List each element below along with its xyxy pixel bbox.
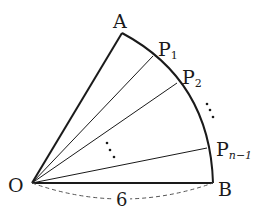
label-Pn-1-main: P (216, 138, 229, 160)
interior-ellipsis-dot (106, 142, 109, 145)
label-A: A (112, 10, 127, 32)
interior-ellipsis-dot (109, 149, 112, 152)
arc-ellipsis-dot (206, 103, 209, 106)
label-P1-sub: 1 (171, 49, 178, 62)
label-P2: P2 (182, 66, 202, 90)
label-B: B (218, 178, 232, 200)
label-O: O (8, 174, 24, 196)
label-P2-sub: 2 (195, 77, 202, 90)
label-Pn-1-sub: n−1 (229, 149, 252, 162)
sector-diagram: A O B P1 P2 Pn−1 6 (0, 0, 268, 217)
label-P1: P1 (158, 38, 178, 62)
label-Pn-1: Pn−1 (216, 138, 252, 162)
arc-ellipsis-dot (209, 109, 212, 112)
segment-OP1 (32, 56, 153, 183)
segment-OA (32, 33, 122, 183)
arc-ellipsis-dot (212, 116, 215, 119)
radius-label: 6 (116, 189, 127, 210)
interior-ellipsis-dot (113, 156, 116, 159)
label-P2-main: P (182, 66, 195, 88)
label-P1-main: P (158, 38, 171, 60)
